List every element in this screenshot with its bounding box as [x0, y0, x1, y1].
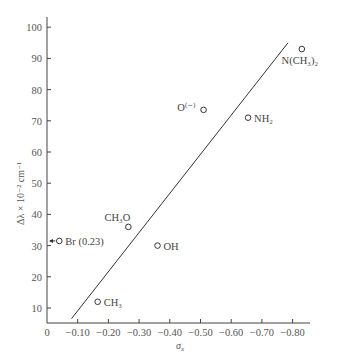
- point-marker: [126, 224, 132, 230]
- x-tick-label: −0.10: [66, 327, 90, 338]
- point-label: CH₃: [104, 297, 123, 308]
- y-axis-title: Δλ × 10⁻² cm⁻¹: [15, 162, 26, 225]
- data-point: N(CH₃)₂: [282, 46, 319, 67]
- y-tick-label: 30: [32, 241, 43, 252]
- point-label: N(CH₃)₂: [282, 55, 319, 67]
- y-tick-label: 60: [32, 147, 43, 158]
- y-tick-label: 50: [32, 178, 43, 189]
- y-tick-label: 40: [32, 209, 43, 220]
- x-ticks: 0−0.10−0.20−0.30−0.40−0.50−0.60−0.70−0.8…: [44, 319, 304, 338]
- data-point: NH₂: [245, 113, 273, 124]
- axes: [47, 17, 310, 323]
- y-tick-label: 80: [32, 85, 43, 96]
- data-point: O⁽⁻⁾: [177, 102, 206, 113]
- x-tick-label: −0.70: [250, 327, 274, 338]
- point-marker: [299, 46, 305, 52]
- arrowhead-icon: [49, 239, 53, 243]
- y-tick-label: 100: [26, 22, 42, 33]
- point-label: Br (0.23): [65, 236, 104, 248]
- data-point: Br (0.23): [49, 236, 104, 248]
- point-marker: [56, 238, 62, 244]
- point-label: OH: [164, 241, 180, 252]
- data-point: CH₃: [95, 297, 122, 308]
- point-marker: [155, 243, 161, 249]
- x-tick-label: −0.30: [127, 327, 151, 338]
- data-point: CH₃O: [105, 212, 132, 230]
- y-tick-label: 90: [32, 53, 43, 64]
- scatter-chart: 102030405060708090100 0−0.10−0.20−0.30−0…: [0, 0, 338, 363]
- x-tick-label: 0: [44, 327, 49, 338]
- y-tick-label: 20: [32, 272, 43, 283]
- point-label: CH₃O: [105, 212, 131, 223]
- y-tick-label: 70: [32, 116, 43, 127]
- fit-line: [72, 43, 288, 319]
- point-marker: [245, 115, 251, 121]
- x-tick-label: −0.20: [96, 327, 120, 338]
- x-axis-title: σx: [176, 340, 185, 353]
- x-tick-label: −0.60: [219, 327, 243, 338]
- x-tick-label: −0.80: [280, 327, 304, 338]
- data-point: OH: [155, 241, 179, 252]
- data-points: N(CH₃)₂O⁽⁻⁾NH₂CH₃OOHBr (0.23)CH₃: [49, 46, 318, 308]
- point-label: NH₂: [254, 113, 273, 124]
- y-tick-label: 10: [32, 303, 43, 314]
- point-marker: [95, 299, 101, 305]
- point-label: O⁽⁻⁾: [177, 102, 196, 113]
- point-marker: [201, 107, 207, 113]
- regression-line: [72, 43, 288, 319]
- x-tick-label: −0.40: [158, 327, 182, 338]
- x-tick-label: −0.50: [188, 327, 212, 338]
